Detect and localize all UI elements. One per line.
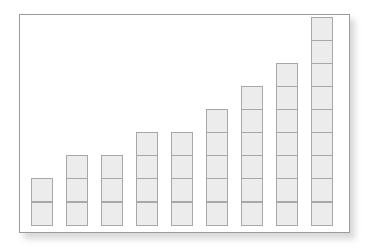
bar-2	[66, 156, 88, 226]
bar-block	[136, 155, 158, 179]
bar-block	[206, 202, 228, 226]
bar-block	[276, 63, 298, 87]
bar-block	[311, 63, 333, 87]
bar-block	[31, 178, 53, 202]
bar-block	[311, 17, 333, 41]
bar-block	[311, 155, 333, 179]
bar-block	[241, 155, 263, 179]
bar-block	[241, 202, 263, 226]
bar-block	[276, 132, 298, 156]
bar-block	[276, 202, 298, 226]
bar-3	[101, 156, 123, 226]
bar-block	[66, 155, 88, 179]
bar-block	[206, 155, 228, 179]
bar-block	[136, 178, 158, 202]
bar-block	[66, 178, 88, 202]
bar-9	[311, 18, 333, 226]
bar-block	[241, 109, 263, 133]
bar-block	[241, 178, 263, 202]
bar-7	[241, 87, 263, 226]
bar-block	[241, 132, 263, 156]
bar-block	[311, 132, 333, 156]
bar-block	[276, 86, 298, 110]
bar-block	[171, 132, 193, 156]
bar-1	[31, 179, 53, 226]
chart-figure	[0, 0, 370, 249]
bar-block	[31, 202, 53, 226]
bar-4	[136, 133, 158, 226]
bar-block	[101, 178, 123, 202]
bar-block	[276, 109, 298, 133]
bar-block	[206, 109, 228, 133]
bar-block	[311, 86, 333, 110]
bar-block	[206, 178, 228, 202]
bar-block	[311, 178, 333, 202]
bar-block	[311, 202, 333, 226]
bar-block	[311, 40, 333, 64]
plot-area	[20, 15, 349, 232]
bar-block	[171, 178, 193, 202]
bar-block	[101, 202, 123, 226]
bar-block	[276, 155, 298, 179]
bar-block	[136, 202, 158, 226]
bar-block	[171, 202, 193, 226]
bar-block	[311, 109, 333, 133]
bar-5	[171, 133, 193, 226]
bar-block	[66, 202, 88, 226]
bar-block	[206, 132, 228, 156]
plot-frame	[19, 14, 350, 233]
bar-block	[171, 155, 193, 179]
bar-6	[206, 110, 228, 226]
bar-block	[101, 155, 123, 179]
bar-block	[241, 86, 263, 110]
bar-block	[276, 178, 298, 202]
bar-8	[276, 64, 298, 226]
bar-block	[136, 132, 158, 156]
